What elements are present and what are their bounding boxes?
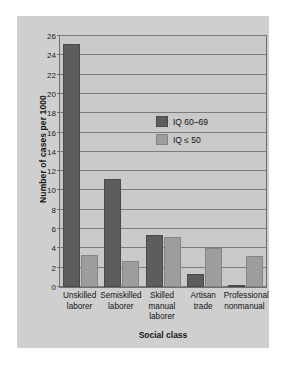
x-tick-label-line: manual	[141, 302, 182, 313]
bar	[104, 179, 121, 287]
x-tick-label-line: laborer	[59, 302, 100, 313]
y-tick-label: 4	[52, 244, 56, 253]
gridline	[60, 209, 266, 210]
x-tick-label-line: trade	[183, 302, 224, 313]
x-tick-label-line: Unskilled	[59, 291, 100, 302]
y-tick-label: 24	[47, 51, 56, 60]
chart-panel: Number of cases per 1000 024681012141618…	[17, 16, 269, 348]
gridline	[60, 54, 266, 55]
y-tick-label: 12	[47, 167, 56, 176]
y-tick-mark	[57, 132, 60, 133]
x-tick-label: Skilledmanuallaborer	[141, 291, 182, 323]
legend-swatch-icon	[156, 116, 168, 127]
x-tick-label-line: Artisan	[183, 291, 224, 302]
y-tick-mark	[57, 112, 60, 113]
y-tick-label: 2	[52, 263, 56, 272]
x-axis-title: Social class	[59, 330, 267, 340]
y-tick-label: 22	[47, 70, 56, 79]
gridline	[60, 189, 266, 190]
gridline	[60, 151, 266, 152]
bar	[81, 255, 98, 287]
bar	[187, 274, 204, 288]
x-tick-label-line: nonmanual	[224, 302, 265, 313]
y-tick-label: 0	[52, 283, 56, 292]
legend: IQ 60–69 IQ ≤ 50	[156, 116, 208, 145]
gridline	[60, 93, 266, 94]
bar	[146, 235, 163, 287]
x-tick-label-line: Semiskilled	[100, 291, 141, 302]
y-tick-mark	[57, 228, 60, 229]
legend-item: IQ 60–69	[156, 116, 208, 127]
legend-swatch-icon	[156, 134, 168, 145]
y-tick-mark	[57, 35, 60, 36]
legend-item: IQ ≤ 50	[156, 134, 208, 145]
y-tick-mark	[57, 151, 60, 152]
x-tick-label: Artisantrade	[183, 291, 224, 312]
x-tick-label: Professionalnonmanual	[224, 291, 265, 312]
bar	[205, 248, 222, 287]
legend-label: IQ 60–69	[173, 117, 208, 127]
y-tick-mark	[57, 93, 60, 94]
y-tick-label: 14	[47, 147, 56, 156]
y-tick-mark	[57, 286, 60, 287]
x-tick-label: Unskilledlaborer	[59, 291, 100, 312]
legend-label: IQ ≤ 50	[173, 135, 201, 145]
gridline	[60, 35, 266, 36]
gridline	[60, 228, 266, 229]
y-tick-mark	[57, 209, 60, 210]
y-tick-label: 6	[52, 225, 56, 234]
y-tick-label: 8	[52, 205, 56, 214]
bar	[122, 261, 139, 287]
x-tick-label-line: laborer	[100, 302, 141, 313]
chart-figure: Number of cases per 1000 024681012141618…	[0, 0, 286, 370]
y-tick-mark	[57, 189, 60, 190]
y-tick-label: 10	[47, 186, 56, 195]
x-tick-label-line: Skilled	[141, 291, 182, 302]
y-tick-mark	[57, 267, 60, 268]
plot-area: 02468101214161820222426 IQ 60–69 IQ ≤ 50	[59, 35, 267, 288]
y-tick-mark	[57, 170, 60, 171]
gridline	[60, 170, 266, 171]
gridline	[60, 112, 266, 113]
gridline	[60, 74, 266, 75]
y-tick-mark	[57, 74, 60, 75]
y-tick-label: 26	[47, 32, 56, 41]
bar	[63, 44, 80, 287]
y-tick-label: 20	[47, 89, 56, 98]
y-tick-label: 18	[47, 109, 56, 118]
x-tick-label-line: Professional	[224, 291, 265, 302]
x-tick-label-line: laborer	[141, 312, 182, 323]
y-tick-mark	[57, 247, 60, 248]
y-tick-mark	[57, 54, 60, 55]
x-tick-label: Semiskilledlaborer	[100, 291, 141, 312]
bar	[246, 256, 263, 287]
bar	[228, 285, 245, 287]
bar	[164, 237, 181, 287]
y-tick-label: 16	[47, 128, 56, 137]
